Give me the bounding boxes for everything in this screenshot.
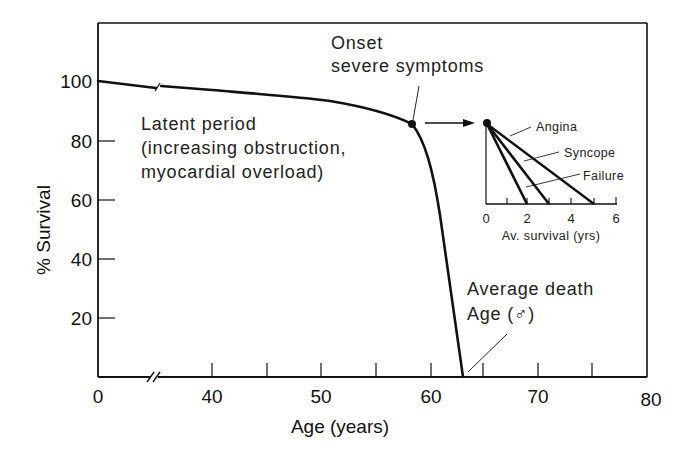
x-tick-60: 60 xyxy=(420,386,441,407)
x-tick-labels: 0 40 50 60 70 80 xyxy=(93,386,662,410)
death-label-1: Average death xyxy=(467,279,594,299)
onset-leader-line xyxy=(413,86,419,120)
failure-leader xyxy=(526,174,580,187)
inset-label-angina: Angina xyxy=(536,120,577,134)
inset-origin-point xyxy=(483,119,491,127)
y-tick-100: 100 xyxy=(60,71,92,92)
inset-tick-0: 0 xyxy=(482,211,489,226)
latent-label-3: myocardial overload) xyxy=(141,162,324,182)
inset-line-failure xyxy=(487,124,527,204)
onset-label-1: Onset xyxy=(331,33,383,53)
y-tick-40: 40 xyxy=(71,249,92,270)
x-ticks xyxy=(212,363,592,377)
death-label-2: Age (♂) xyxy=(467,304,535,324)
inset-tick-4: 4 xyxy=(567,211,574,226)
y-tick-80: 80 xyxy=(71,131,92,152)
y-tick-20: 20 xyxy=(71,308,92,329)
y-ticks xyxy=(98,141,115,318)
angina-leader xyxy=(510,127,531,136)
latent-label-1: Latent period xyxy=(141,114,256,134)
y-axis-title: % Survival xyxy=(33,185,54,275)
x-axis-title: Age (years) xyxy=(291,416,389,437)
y-tick-labels: 100 80 60 40 20 xyxy=(60,71,92,329)
survival-chart: 100 80 60 40 20 0 40 50 60 70 80 Age (ye… xyxy=(0,0,682,459)
x-tick-50: 50 xyxy=(310,386,331,407)
death-leader-line xyxy=(468,334,507,372)
onset-point xyxy=(408,120,416,128)
y-tick-60: 60 xyxy=(71,190,92,211)
arrow-to-inset xyxy=(425,119,475,127)
x-tick-80: 80 xyxy=(640,389,661,410)
x-tick-40: 40 xyxy=(201,386,222,407)
inset-label-failure: Failure xyxy=(583,169,624,183)
inset-chart: Angina Syncope Failure 0 2 4 6 Av. survi… xyxy=(482,119,624,243)
x-tick-70: 70 xyxy=(527,386,548,407)
inset-tick-6: 6 xyxy=(612,211,619,226)
inset-label-syncope: Syncope xyxy=(564,146,615,160)
plot-frame xyxy=(98,23,647,382)
inset-tick-2: 2 xyxy=(523,211,530,226)
onset-label-2: severe symptoms xyxy=(331,56,484,76)
inset-x-title: Av. survival (yrs) xyxy=(502,229,600,243)
latent-label-2: (increasing obstruction, xyxy=(141,138,346,158)
x-tick-0: 0 xyxy=(93,386,104,407)
